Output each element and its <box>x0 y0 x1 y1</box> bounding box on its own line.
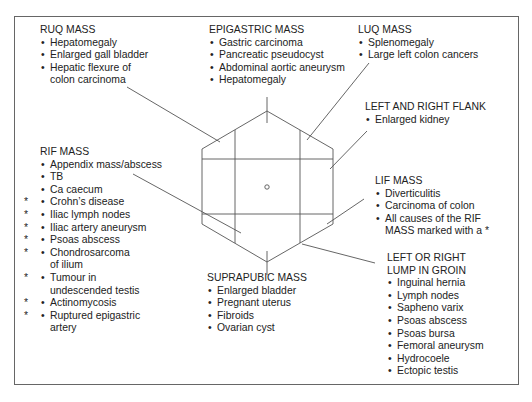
ruq-mass-group: RUQ MASS •Hepatomegaly •Enlarged gall bl… <box>40 24 148 87</box>
list-item: •TB <box>40 171 162 184</box>
abdomen-outline <box>202 111 333 262</box>
star-marker: * <box>24 222 28 235</box>
list-item: •Hepatomegaly <box>40 37 148 50</box>
list-item: •Hepatomegaly <box>209 74 345 87</box>
epigastric-title: EPIGASTRIC MASS <box>209 24 345 37</box>
list-item: •Diverticulitis <box>375 188 489 201</box>
star-marker: * <box>24 310 28 323</box>
list-item: •Psoas abscess <box>387 315 484 328</box>
ruq-leader <box>127 87 220 142</box>
list-item: •Carcinoma of colon <box>375 200 489 213</box>
flank-leader <box>330 131 367 169</box>
list-item: •Fibroids <box>207 310 307 323</box>
list-item: *•Chondrosarcomaof ilium <box>40 247 162 272</box>
list-item: •Inguinal hernia <box>387 277 484 290</box>
list-item: •Abdominal aortic aneurysm <box>209 62 345 75</box>
list-item: •Femoral aneurysm <box>387 340 484 353</box>
list-item: •Pregnant uterus <box>207 297 307 310</box>
list-item: •Hydrocoele <box>387 353 484 366</box>
list-item: *•Psoas abscess <box>40 234 162 247</box>
groin-lump-group: LEFT OR RIGHT LUMP IN GROIN •Inguinal he… <box>387 252 484 378</box>
list-item: •Enlarged gall bladder <box>40 49 148 62</box>
star-marker: * <box>24 196 28 209</box>
list-item: •Gastric carcinoma <box>209 37 345 50</box>
list-item: *•Crohn’s disease <box>40 196 162 209</box>
list-item: •Appendix mass/abscess <box>40 159 162 172</box>
ruq-title: RUQ MASS <box>40 24 148 37</box>
umbilicus-circle <box>265 185 269 189</box>
list-item: *•Iliac lymph nodes <box>40 209 162 222</box>
star-marker: * <box>24 209 28 222</box>
list-item: •All causes of the RIFMASS marked with a… <box>375 213 489 238</box>
groin-title: LEFT OR RIGHT <box>387 252 484 265</box>
list-item: *•Iliac artery aneurysm <box>40 222 162 235</box>
star-marker: * <box>24 297 28 310</box>
list-item: •Psoas bursa <box>387 328 484 341</box>
suprapubic-mass-group: SUPRAPUBIC MASS •Enlarged bladder •Pregn… <box>207 272 307 335</box>
lif-title: LIF MASS <box>375 175 489 188</box>
rif-mass-group: RIF MASS •Appendix mass/abscess •TB •Ca … <box>40 146 162 335</box>
list-item: •Enlarged bladder <box>207 285 307 298</box>
list-item: •Enlarged kidney <box>365 114 486 127</box>
list-item: *•Actinomycosis <box>40 297 162 310</box>
list-item: •Ca caecum <box>40 184 162 197</box>
list-item: •Pancreatic pseudocyst <box>209 49 345 62</box>
list-item: •Sapheno varix <box>387 302 484 315</box>
suprapubic-title: SUPRAPUBIC MASS <box>207 272 307 285</box>
groin-leader <box>302 244 375 263</box>
star-marker: * <box>24 247 28 260</box>
list-item: •Hepatic flexure ofcolon carcinoma <box>40 62 148 87</box>
list-item: *•Ruptured epigastricartery <box>40 310 162 335</box>
flank-group: LEFT AND RIGHT FLANK •Enlarged kidney <box>365 101 486 126</box>
luq-title: LUQ MASS <box>358 24 478 37</box>
flank-title: LEFT AND RIGHT FLANK <box>365 101 486 114</box>
luq-mass-group: LUQ MASS •Splenomegaly •Large left colon… <box>358 24 478 62</box>
list-item: •Large left colon cancers <box>358 49 478 62</box>
star-marker: * <box>24 272 28 285</box>
groin-title-line2: LUMP IN GROIN <box>387 265 484 278</box>
list-item: •Splenomegaly <box>358 37 478 50</box>
epigastric-mass-group: EPIGASTRIC MASS •Gastric carcinoma •Panc… <box>209 24 345 87</box>
list-item: •Ovarian cyst <box>207 322 307 335</box>
star-marker: * <box>24 234 28 247</box>
lif-mass-group: LIF MASS •Diverticulitis •Carcinoma of c… <box>375 175 489 238</box>
rif-title: RIF MASS <box>40 146 162 159</box>
list-item: *•Tumour inundescended testis <box>40 272 162 297</box>
list-item: •Lymph nodes <box>387 290 484 303</box>
list-item: •Ectopic testis <box>387 365 484 378</box>
